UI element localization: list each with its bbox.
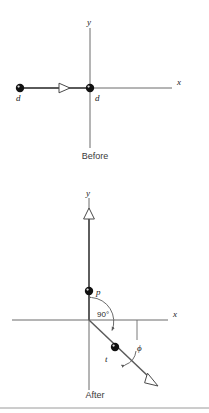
t-momentum-arrow-icon [145,373,158,386]
physics-figure: y x d d Before y x [0,0,209,413]
after-ball-t-label: t [105,354,108,364]
angle-phi-label: ϕ [137,343,142,353]
before-target-ball-label: d [95,93,100,103]
before-incoming-ball-highlight [17,85,19,87]
incoming-velocity-arrow-icon [59,83,70,93]
before-target-ball [86,84,94,92]
before-y-axis-label: y [86,17,91,27]
before-x-axis-label: x [176,77,181,87]
figure-canvas: y x d d Before y x [0,0,209,413]
before-caption: Before [82,151,109,161]
after-ball-p-label: p [95,287,101,297]
after-caption: After [85,390,104,400]
angle-90-label: 90° [97,310,109,319]
before-incoming-ball-label: d [16,93,21,103]
after-y-axis-label: y [85,188,90,198]
after-ball-p [85,287,93,295]
p-momentum-arrow-icon [84,208,95,219]
after-ball-t-highlight [112,344,114,346]
before-target-ball-highlight [87,85,89,87]
before-incoming-ball [16,84,24,92]
after-diagram: y x p t 90° ϕ [12,188,177,400]
after-ball-p-highlight [86,288,88,290]
before-diagram: y x d d Before [16,17,181,161]
after-ball-t [111,343,119,351]
after-x-axis-label: x [172,309,177,319]
